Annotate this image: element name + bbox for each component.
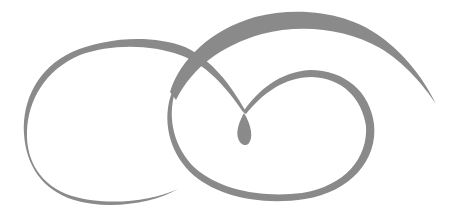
swirl-ornament-graphic bbox=[0, 0, 470, 215]
swirl-ornament bbox=[0, 0, 470, 215]
top-sweep-arc bbox=[170, 12, 436, 104]
right-loop bbox=[167, 70, 374, 201]
teardrop-flourish bbox=[237, 113, 251, 145]
